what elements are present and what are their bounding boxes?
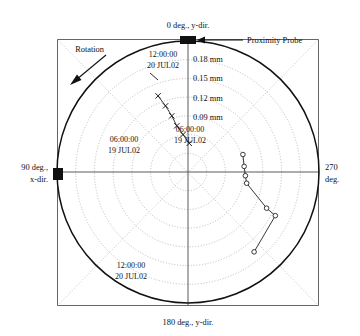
proximity-probe-marker-top <box>180 36 196 44</box>
ring-label-2: 0.12 mm <box>193 94 223 103</box>
lower-trace-start-date: 19 JUL02 <box>108 146 140 155</box>
polar-orbit-plot: 0.18 mm 0.15 mm 0.12 mm 0.09 mm 0 deg., … <box>0 0 360 336</box>
upper-trace-marker-2 <box>169 113 174 118</box>
upper-trace-leader <box>150 73 158 80</box>
ring-label-0: 0.18 mm <box>193 55 223 64</box>
axis-label-left-line1: 90 deg., <box>21 163 48 172</box>
proximity-probe-arrow <box>197 37 243 44</box>
upper-trace-end-time: 06:00:00 <box>176 125 204 134</box>
upper-trace-start-time: 12:00:00 <box>149 50 177 59</box>
axis-label-right-line1: 270 <box>325 163 338 172</box>
data-trace-lower <box>241 152 278 254</box>
rotation-label: Rotation <box>75 45 105 54</box>
proximity-probe-marker-left <box>53 168 63 180</box>
proximity-probe-label: Proximity Probe <box>247 36 302 45</box>
lower-trace-start-time: 06:00:00 <box>110 135 138 144</box>
axis-label-top: 0 deg., y-dir. <box>167 21 210 30</box>
lower-trace-line <box>243 155 275 252</box>
axis-label-bottom: 180 deg., y-dir. <box>163 318 214 327</box>
upper-trace-marker-1 <box>163 103 168 108</box>
upper-trace-marker-0 <box>155 93 160 98</box>
lower-trace-marker-0 <box>241 152 246 157</box>
axis-label-left-line2: x-dir. <box>30 175 48 184</box>
radial-tick-labels: 0.18 mm 0.15 mm 0.12 mm 0.09 mm <box>193 55 223 122</box>
rotation-arrow <box>70 55 106 85</box>
ring-label-3: 0.09 mm <box>193 113 223 122</box>
lower-trace-marker-4 <box>264 206 269 211</box>
upper-trace-end-date: 19 JUL02 <box>174 136 206 145</box>
axis-label-right-line2: deg. <box>325 175 339 184</box>
lower-trace-marker-1 <box>242 164 247 169</box>
lower-trace-marker-6 <box>252 250 257 255</box>
lower-trace-end-date: 20 JUL02 <box>115 272 147 281</box>
lower-trace-marker-2 <box>243 173 248 178</box>
lower-trace-marker-5 <box>273 213 278 218</box>
lower-trace-marker-3 <box>244 181 249 186</box>
upper-trace-start-date: 20 JUL02 <box>147 61 179 70</box>
ring-label-1: 0.15 mm <box>193 74 223 83</box>
plot-canvas: 0.18 mm 0.15 mm 0.12 mm 0.09 mm 0 deg., … <box>0 0 360 336</box>
lower-trace-end-time: 12:00:00 <box>117 261 145 270</box>
